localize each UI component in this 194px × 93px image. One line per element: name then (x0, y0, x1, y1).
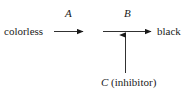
edge-label-a: A (65, 8, 72, 19)
edge-label-b: B (124, 8, 131, 19)
node-label-c-qualifier: (inhibitor) (108, 76, 156, 88)
node-label-colorless: colorless (4, 26, 43, 37)
arrows-layer (0, 0, 194, 93)
node-label-black: black (157, 26, 181, 37)
reaction-scheme-diagram: colorless black A B C (inhibitor) (0, 0, 194, 93)
node-label-c-inhibitor: C (inhibitor) (101, 77, 156, 88)
